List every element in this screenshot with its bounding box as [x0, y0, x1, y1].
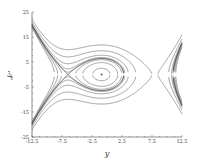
trajectory-curve: [32, 75, 152, 129]
trajectory-curve: [32, 77, 54, 122]
x-tick-label: 2.5: [118, 138, 126, 144]
y-tick-label: 5: [26, 59, 29, 65]
trajectory-curve: [32, 26, 58, 73]
phase-portrait-chart: -12.5-7.5-2.52.57.512.525155-5-15-25 y y…: [0, 0, 198, 162]
y-axis-title: y': [4, 70, 16, 81]
x-axis-title: y: [104, 149, 110, 158]
tick-labels: -12.5-7.5-2.52.57.512.525155-5-15-25: [21, 9, 188, 144]
trajectory-curve: [32, 75, 58, 122]
axes: [32, 12, 182, 137]
x-tick-label: -2.5: [87, 138, 97, 144]
trajectory-curve: [32, 28, 54, 73]
x-tick-label: -7.5: [57, 138, 67, 144]
trajectory-curve: [93, 68, 110, 74]
y-tick-label: -5: [24, 84, 29, 90]
x-tick-label: 7.5: [148, 138, 156, 144]
y-tick-label: 15: [23, 34, 29, 40]
y-tick-label: 25: [23, 9, 29, 15]
trajectory-curve: [32, 25, 124, 73]
center-equilibrium-point: [101, 74, 103, 76]
trajectory-curve: [93, 75, 110, 81]
y-tick-label: -15: [21, 109, 29, 115]
trajectory-curve: [32, 76, 124, 124]
trajectory-curve: [32, 19, 152, 73]
y-tick-label: -25: [21, 134, 29, 140]
x-tick-label: 12.5: [176, 138, 187, 144]
trajectory-curves: [32, 19, 182, 129]
